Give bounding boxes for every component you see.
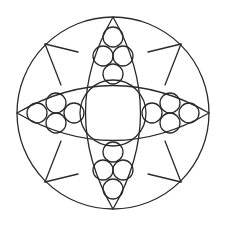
vertical-lens — [86, 17, 141, 209]
top-small-circle-1 — [103, 27, 123, 47]
right-small-circle-4 — [142, 103, 162, 123]
center-circle-layer — [80, 80, 146, 146]
bottom-right-kite-line-b — [165, 141, 181, 182]
left-small-circle-2 — [46, 93, 66, 113]
center-circle — [80, 80, 146, 146]
small-circles-layer — [27, 27, 199, 199]
top-small-circle-4 — [103, 64, 123, 84]
right-small-circle-2 — [160, 93, 180, 113]
bottom-left-kite-line-a — [45, 174, 78, 182]
top-left-kite-line-a — [45, 44, 78, 52]
diagonal-kite-layer — [45, 44, 181, 182]
left-small-circle-1 — [27, 103, 47, 123]
bottom-small-circle-1 — [103, 179, 123, 199]
bottom-left-kite-line-b — [45, 141, 61, 182]
right-small-circle-3 — [160, 113, 180, 133]
left-small-circle-3 — [46, 113, 66, 133]
bottom-small-circle-2 — [93, 160, 113, 180]
top-small-circle-3 — [113, 46, 133, 66]
horizontal-lens — [17, 86, 209, 141]
top-left-kite-line-b — [45, 44, 61, 85]
bottom-small-circle-3 — [113, 160, 133, 180]
bottom-right-kite-line-a — [148, 174, 181, 182]
mandala-diagram — [0, 0, 226, 226]
right-small-circle-1 — [179, 103, 199, 123]
top-small-circle-2 — [93, 46, 113, 66]
top-right-kite-line-b — [165, 44, 181, 85]
top-right-kite-line-a — [148, 44, 181, 52]
left-small-circle-4 — [64, 103, 84, 123]
bottom-small-circle-4 — [103, 142, 123, 162]
mandala-svg — [0, 0, 226, 226]
